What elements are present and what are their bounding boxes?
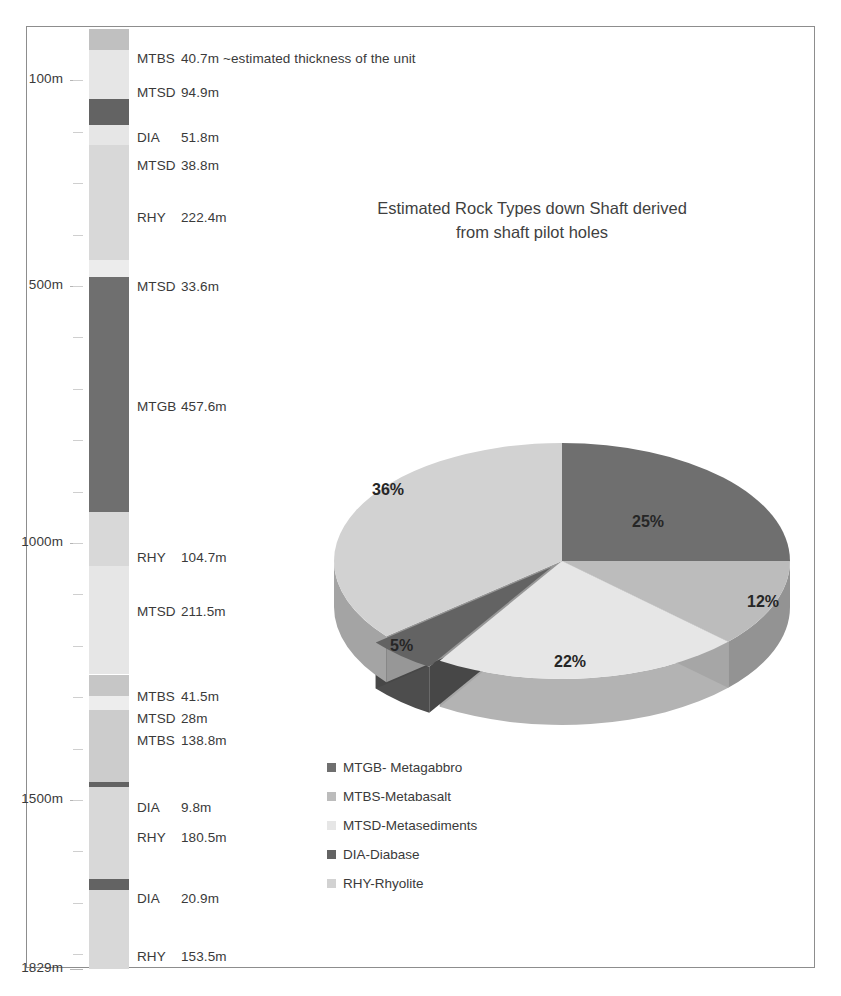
pie-label-mtgb: 25%	[632, 513, 664, 531]
depth-minor-tick	[73, 800, 83, 801]
unit-thickness: 28m	[181, 711, 208, 726]
strat-segment-mtsd	[89, 260, 129, 277]
unit-code: MTBS	[137, 51, 181, 66]
strat-label-mtgb: MTGB457.6m	[137, 399, 227, 414]
unit-code: MTBS	[137, 733, 181, 748]
legend-item-mtsd[interactable]: MTSD-Metasediments	[327, 811, 587, 840]
depth-axis: 100m500m1000m1500m1829m	[27, 27, 89, 969]
pie-label-rhy: 36%	[372, 481, 404, 499]
strat-segment-mtsd	[89, 50, 129, 99]
legend-swatch-icon	[327, 821, 336, 830]
strat-segment-mtsd	[89, 125, 129, 145]
chart-title-line-2: from shaft pilot holes	[317, 221, 747, 245]
unit-thickness: 457.6m	[181, 399, 227, 414]
unit-code: RHY	[137, 949, 181, 964]
legend-swatch-icon	[327, 850, 336, 859]
depth-tick-label: 500m	[29, 277, 63, 292]
pie-slice-mtgb[interactable]	[562, 443, 790, 561]
legend-label: RHY-Rhyolite	[343, 876, 424, 891]
unit-thickness: 153.5m	[181, 949, 227, 964]
strat-label-rhy: RHY153.5m	[137, 949, 227, 964]
chart-title-line-1: Estimated Rock Types down Shaft derived	[317, 197, 747, 221]
unit-code: MTSD	[137, 85, 181, 100]
unit-thickness: 38.8m	[181, 158, 219, 173]
legend-swatch-icon	[327, 792, 336, 801]
unit-code: DIA	[137, 130, 181, 145]
depth-minor-tick	[73, 646, 83, 647]
unit-code: DIA	[137, 891, 181, 906]
strat-label-mtsd: MTSD33.6m	[137, 279, 219, 294]
unit-thickness: 94.9m	[181, 85, 219, 100]
depth-minor-tick	[73, 389, 83, 390]
strat-segment-rhy	[89, 890, 129, 969]
depth-minor-tick	[73, 543, 83, 544]
strat-label-dia: DIA9.8m	[137, 800, 211, 815]
unit-code: RHY	[137, 210, 181, 225]
strat-segment-mtbs	[89, 29, 129, 50]
unit-thickness: 222.4m	[181, 210, 227, 225]
depth-tick-label: 1000m	[21, 534, 63, 549]
strat-segment-mtsd	[89, 566, 129, 675]
pie-chart: 25%12%22%5%36%	[322, 413, 812, 773]
pie-label-mtbs: 12%	[747, 593, 779, 611]
depth-tick-label: 1500m	[21, 791, 63, 806]
legend-item-mtgb[interactable]: MTGB- Metagabbro	[327, 753, 587, 782]
strat-segment-mtsd	[89, 696, 129, 710]
unit-thickness: 20.9m	[181, 891, 219, 906]
strat-segment-mtgb	[89, 277, 129, 512]
depth-minor-tick	[73, 749, 83, 750]
depth-minor-tick	[73, 80, 83, 81]
strat-segment-rhy	[89, 145, 129, 259]
unit-thickness: 211.5m	[181, 604, 226, 619]
unit-thickness: 180.5m	[181, 830, 227, 845]
depth-minor-tick	[73, 697, 83, 698]
depth-minor-tick	[73, 594, 83, 595]
unit-thickness: 9.8m	[181, 800, 211, 815]
depth-minor-tick	[73, 235, 83, 236]
legend-label: MTSD-Metasediments	[343, 818, 477, 833]
chart-title: Estimated Rock Types down Shaft derived …	[317, 197, 747, 245]
strat-label-mtsd: MTSD38.8m	[137, 158, 219, 173]
strat-label-mtsd: MTSD28m	[137, 711, 208, 726]
legend-item-mtbs[interactable]: MTBS-Metabasalt	[327, 782, 587, 811]
pie-label-mtsd: 22%	[554, 653, 586, 671]
strat-segment-mtbs	[89, 675, 129, 696]
legend-item-dia[interactable]: DIA-Diabase	[327, 840, 587, 869]
unit-code: MTSD	[137, 604, 181, 619]
strat-label-rhy: RHY104.7m	[137, 550, 227, 565]
unit-code: MTSD	[137, 158, 181, 173]
unit-code: RHY	[137, 550, 181, 565]
pie-legend: MTGB- MetagabbroMTBS-MetabasaltMTSD-Meta…	[327, 753, 587, 898]
unit-thickness: 41.5m	[181, 689, 219, 704]
legend-label: MTGB- Metagabbro	[343, 760, 462, 775]
unit-code: DIA	[137, 800, 181, 815]
unit-code: MTSD	[137, 279, 181, 294]
strat-label-mtbs: MTBS138.8m	[137, 733, 227, 748]
unit-thickness: 138.8m	[181, 733, 227, 748]
unit-code: MTGB	[137, 399, 181, 414]
legend-swatch-icon	[327, 763, 336, 772]
strat-segment-dia	[89, 99, 129, 126]
unit-thickness: 33.6m	[181, 279, 219, 294]
legend-label: MTBS-Metabasalt	[343, 789, 451, 804]
strat-segment-rhy	[89, 512, 129, 566]
depth-minor-tick	[73, 183, 83, 184]
strat-label-rhy: RHY180.5m	[137, 830, 227, 845]
legend-item-rhy[interactable]: RHY-Rhyolite	[327, 869, 587, 898]
depth-tick-mark	[70, 969, 83, 970]
unit-thickness: 104.7m	[181, 550, 227, 565]
depth-minor-tick	[73, 851, 83, 852]
strat-segment-dia	[89, 879, 129, 890]
strat-segment-rhy	[89, 787, 129, 880]
figure-frame: 100m500m1000m1500m1829m MTBS40.7m~estima…	[26, 26, 815, 968]
depth-minor-tick	[73, 954, 83, 955]
unit-code: RHY	[137, 830, 181, 845]
unit-thickness: 51.8m	[181, 130, 219, 145]
strat-label-mtbs: MTBS41.5m	[137, 689, 219, 704]
depth-tick-label: 100m	[29, 71, 63, 86]
pie-label-dia: 5%	[390, 637, 413, 655]
unit-thickness: 40.7m	[181, 51, 219, 66]
depth-tick-label: 1829m	[21, 960, 63, 975]
depth-minor-tick	[73, 903, 83, 904]
unit-code: MTBS	[137, 689, 181, 704]
